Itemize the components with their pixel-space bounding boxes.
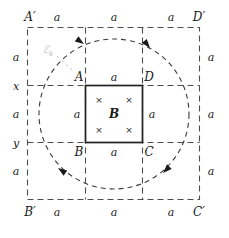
field-into-page-mark-3: × — [95, 126, 103, 135]
left-axis-tick-label-x: x — [13, 81, 19, 92]
outer-corner-label-bottom-right: C′ — [193, 206, 205, 218]
outer-corner-label-bottom-left: B′ — [24, 206, 36, 218]
outer-left-segment-label-2: a — [13, 109, 20, 120]
induced-emf-subscript: k — [49, 50, 53, 58]
physics-figure-induced-emf: A′ D′ B′ C′ a a a a a a a a a a x a y a … — [0, 0, 229, 238]
inner-side-label-top: a — [111, 72, 118, 83]
outer-bottom-segment-label-2: a — [111, 207, 118, 218]
outer-top-segment-label-3: a — [168, 12, 175, 23]
outer-corner-label-top-right: D′ — [193, 11, 205, 23]
induced-emf-label: ℰk — [43, 45, 53, 58]
outer-bottom-segment-label-3: a — [168, 207, 175, 218]
inner-corner-label-c: C — [144, 146, 153, 158]
outer-right-segment-label-3: a — [208, 166, 215, 177]
field-into-page-mark-4: × — [125, 126, 133, 135]
outer-corner-label-top-left: A′ — [24, 11, 35, 23]
circle-arrowhead-bottom-right — [161, 164, 172, 175]
inner-corner-label-d: D — [144, 71, 154, 83]
inner-side-label-right: a — [149, 109, 156, 120]
circle-arrowhead-bottom-left — [56, 165, 67, 175]
outer-top-segment-label-2: a — [111, 12, 118, 23]
outer-left-segment-label-3: a — [13, 166, 20, 177]
outer-bottom-segment-label-1: a — [54, 207, 61, 218]
inner-corner-label-a: A — [75, 71, 84, 83]
circle-arrowhead-top-left — [75, 36, 86, 46]
outer-top-segment-label-1: a — [54, 12, 61, 23]
magnetic-field-label: B — [109, 108, 119, 120]
outer-right-segment-label-2: a — [208, 109, 215, 120]
outer-right-segment-label-1: a — [208, 52, 215, 63]
field-into-page-mark-1: × — [95, 96, 103, 105]
inner-side-label-bottom: a — [111, 147, 118, 158]
field-into-page-mark-2: × — [125, 96, 133, 105]
inner-side-label-left: a — [74, 109, 81, 120]
left-axis-tick-label-y: y — [13, 138, 19, 149]
inner-corner-label-b: B — [75, 146, 84, 158]
outer-left-segment-label-1: a — [13, 52, 20, 63]
